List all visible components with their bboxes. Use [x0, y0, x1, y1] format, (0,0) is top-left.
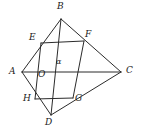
- vertex-label-g: G: [75, 94, 82, 103]
- segment-fg: [73, 41, 84, 98]
- vertex-label-c: C: [126, 66, 133, 75]
- geometry-canvas: [0, 0, 142, 137]
- vertex-label-f: F: [85, 30, 91, 39]
- vertex-label-h: H: [23, 94, 31, 103]
- vertex-label-e: E: [29, 33, 36, 42]
- segment-gh: [35, 98, 73, 99]
- segment-bc: [61, 19, 121, 72]
- diagonal-bd: [51, 19, 61, 115]
- vertex-label-o: O: [38, 70, 45, 79]
- vertex-label-d: D: [45, 118, 52, 127]
- segment-cd: [51, 72, 121, 115]
- geometry-figure: A B C D E F G H O α: [0, 0, 142, 137]
- vertex-label-b: B: [57, 2, 64, 11]
- diagonals: [22, 19, 121, 115]
- angle-alpha-label: α: [56, 58, 61, 66]
- segment-ef: [41, 41, 84, 43]
- vertex-label-a: A: [9, 67, 16, 76]
- outer-quadrilateral-abcd: [22, 19, 121, 115]
